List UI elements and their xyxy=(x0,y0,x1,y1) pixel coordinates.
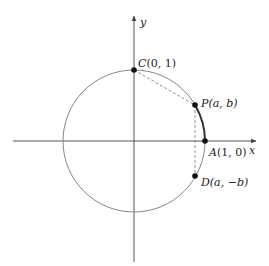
y-axis-label: y xyxy=(139,16,147,29)
label-a: A(1, 0) xyxy=(208,146,247,159)
point-p xyxy=(192,102,198,108)
point-a xyxy=(202,138,208,144)
label-c: C(0, 1) xyxy=(138,57,176,70)
arc-a-to-p xyxy=(195,105,205,141)
point-d xyxy=(192,173,198,179)
point-c xyxy=(131,67,137,73)
label-p: P(a, b) xyxy=(200,97,238,110)
x-axis-label: x xyxy=(249,144,256,157)
chord-c-p xyxy=(134,70,195,105)
unit-circle-diagram: y x C(0, 1) P(a, b) A(1, 0) D(a, −b) xyxy=(0,0,269,266)
label-d: D(a, −b) xyxy=(200,176,248,189)
